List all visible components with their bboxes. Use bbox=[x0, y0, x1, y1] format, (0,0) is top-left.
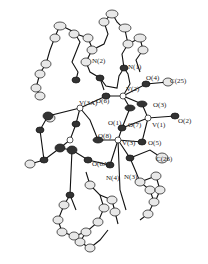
label-n1: N(1) bbox=[128, 64, 141, 71]
atoms bbox=[25, 10, 179, 252]
label-v3: V(3) bbox=[122, 140, 135, 147]
label-o6a: O(6A) bbox=[92, 161, 110, 168]
label-o8: O(8) bbox=[98, 133, 111, 140]
label-v1: V(1) bbox=[152, 122, 165, 129]
label-o2: O(2) bbox=[178, 118, 191, 125]
label-o5: O(5) bbox=[148, 140, 161, 147]
label-o3: O(3) bbox=[153, 102, 166, 109]
label-n4: N(4) bbox=[106, 175, 119, 182]
label-v3a: V(3A) bbox=[79, 100, 97, 107]
label-o1: O(1) bbox=[108, 120, 121, 127]
bonds bbox=[30, 13, 175, 248]
label-o4: O(4) bbox=[146, 75, 159, 82]
label-o7: O(7) bbox=[128, 122, 141, 129]
label-v2: V(2) bbox=[126, 86, 139, 93]
label-o6: O(6) bbox=[96, 98, 109, 105]
label-n3: N(3) bbox=[124, 174, 137, 181]
label-c25: C(25) bbox=[170, 78, 186, 85]
label-n2: N(2) bbox=[92, 58, 105, 65]
label-c26: C(26) bbox=[156, 156, 172, 163]
